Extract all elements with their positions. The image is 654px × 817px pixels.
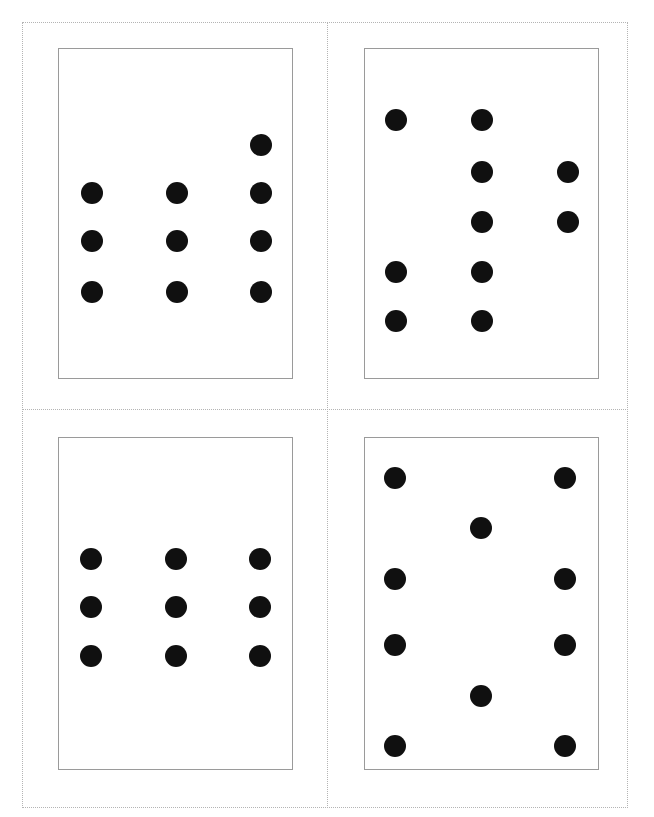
pip	[249, 645, 271, 667]
pip	[384, 568, 406, 590]
pip	[471, 261, 493, 283]
pip	[166, 281, 188, 303]
pip	[471, 109, 493, 131]
cut-guide-vertical	[327, 22, 328, 808]
pip	[554, 735, 576, 757]
card-bottom-right[interactable]	[364, 437, 599, 770]
pip	[384, 634, 406, 656]
pip	[249, 548, 271, 570]
pip	[81, 281, 103, 303]
pip	[250, 134, 272, 156]
pip	[249, 596, 271, 618]
pip	[470, 685, 492, 707]
pip	[557, 161, 579, 183]
card-top-right[interactable]	[364, 48, 599, 379]
pip	[166, 182, 188, 204]
pip	[554, 568, 576, 590]
pip	[166, 230, 188, 252]
pip	[165, 596, 187, 618]
card-top-left[interactable]	[58, 48, 293, 379]
pip	[471, 211, 493, 233]
pip	[165, 548, 187, 570]
pip	[385, 261, 407, 283]
pip	[470, 517, 492, 539]
pip	[385, 310, 407, 332]
pip	[384, 735, 406, 757]
pip	[250, 182, 272, 204]
pip	[554, 467, 576, 489]
pip	[554, 634, 576, 656]
pip	[165, 645, 187, 667]
pip	[250, 230, 272, 252]
pip	[81, 230, 103, 252]
pip	[385, 109, 407, 131]
pip	[80, 548, 102, 570]
pip	[471, 161, 493, 183]
pip	[471, 310, 493, 332]
pip	[80, 645, 102, 667]
card-bottom-left[interactable]	[58, 437, 293, 770]
pip	[80, 596, 102, 618]
pip	[250, 281, 272, 303]
print-sheet	[0, 0, 654, 817]
pip	[81, 182, 103, 204]
pip	[557, 211, 579, 233]
cut-guide-horizontal	[22, 409, 628, 410]
pip	[384, 467, 406, 489]
